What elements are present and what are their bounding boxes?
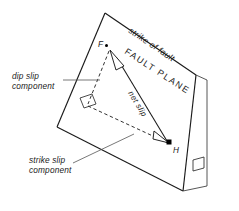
fault-block-diagram: strike of fault FAULT PLANE net slip F H…	[0, 0, 239, 211]
point-h-marker	[167, 140, 172, 145]
point-f-marker	[105, 44, 108, 47]
label-strike-slip-line2: component	[29, 165, 72, 175]
label-dip-slip-line2: component	[12, 81, 55, 91]
fault-plane-face	[57, 13, 196, 191]
label-point-h: H	[173, 146, 179, 155]
label-dip-slip-line1: dip slip	[12, 71, 39, 81]
fault-diagram-container: strike of fault FAULT PLANE net slip F H…	[0, 0, 239, 211]
label-strike-slip-line1: strike slip	[29, 155, 65, 165]
